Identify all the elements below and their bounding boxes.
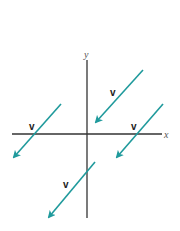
vector-3: v — [117, 104, 163, 157]
x-axis-label: x — [163, 129, 169, 140]
vector-label: v — [131, 121, 137, 132]
vector-1: v — [96, 70, 143, 122]
vector-diagram: y x v v v v — [0, 0, 180, 231]
vector-label: v — [29, 121, 35, 132]
vector-4: v — [49, 162, 95, 217]
vector-arrow — [96, 70, 143, 122]
vector-arrow — [49, 162, 95, 217]
vector-arrow — [117, 104, 163, 157]
vector-label: v — [110, 87, 116, 98]
y-axis-label: y — [83, 49, 89, 60]
vector-label: v — [63, 179, 69, 190]
vector-2: v — [14, 104, 61, 157]
vector-arrow — [14, 104, 61, 157]
